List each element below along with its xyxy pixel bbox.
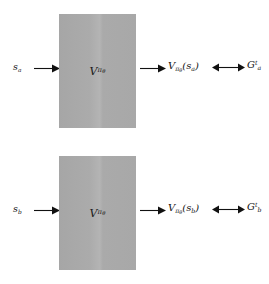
return-target-subscript-a: a bbox=[258, 64, 262, 71]
input-state-label-a: sa bbox=[13, 62, 21, 72]
arrow-compare-a bbox=[212, 62, 245, 73]
arrow-input-to-box-b bbox=[34, 205, 60, 216]
arrow-box-to-output-b bbox=[140, 205, 166, 216]
value-network-box-label-a: Vπθ bbox=[59, 14, 136, 128]
predicted-value-paren-close-a: ) bbox=[195, 60, 199, 71]
return-target-subscript-b: b bbox=[258, 206, 262, 213]
value-network-box-b: Vπθ bbox=[59, 156, 136, 270]
value-network-symbol-b: V bbox=[89, 207, 97, 220]
arrow-box-to-output-a bbox=[140, 63, 166, 74]
input-state-subscript-b: b bbox=[18, 209, 22, 215]
return-target-label-b: Gtb bbox=[247, 202, 261, 212]
predicted-value-label-a: Vπθ(sa) bbox=[168, 61, 199, 71]
return-target-symbol-a: G bbox=[247, 59, 255, 70]
input-state-subscript-a: a bbox=[18, 67, 22, 73]
input-state-label-b: sb bbox=[13, 204, 22, 214]
diagram-row-state-b: sb Vπθ Vπθ(sb) bbox=[0, 142, 269, 284]
return-target-symbol-b: G bbox=[247, 201, 255, 212]
value-function-comparison-diagram: sa Vπθ Vπθ(sa) bbox=[0, 0, 269, 284]
value-network-box-a: Vπθ bbox=[59, 14, 136, 128]
arrow-compare-b bbox=[212, 204, 245, 215]
value-network-policy-sub-b: πθ bbox=[98, 212, 106, 213]
value-network-box-label-b: Vπθ bbox=[59, 156, 136, 270]
arrow-input-to-box-a bbox=[34, 63, 60, 74]
diagram-row-state-a: sa Vπθ Vπθ(sa) bbox=[0, 0, 269, 142]
return-target-label-a: Gta bbox=[247, 60, 261, 70]
predicted-value-paren-close-b: ) bbox=[195, 202, 199, 213]
predicted-value-label-b: Vπθ(sb) bbox=[168, 203, 199, 213]
value-network-policy-sub-a: πθ bbox=[98, 70, 106, 71]
value-network-symbol-a: V bbox=[89, 65, 97, 78]
